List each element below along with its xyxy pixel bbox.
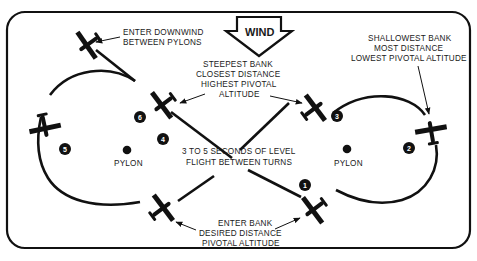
svg-text:3 TO 5 SECONDS OF LEVEL: 3 TO 5 SECONDS OF LEVEL — [182, 147, 296, 156]
svg-text:ENTER BANK: ENTER BANK — [218, 219, 273, 228]
pylon-left-label: PYLON — [114, 159, 143, 168]
position-marker-4: 4 — [157, 133, 169, 145]
svg-text:ENTER DOWNWIND: ENTER DOWNWIND — [123, 28, 204, 37]
position-marker-5: 5 — [59, 143, 71, 155]
svg-text:MOST DISTANCE: MOST DISTANCE — [374, 44, 444, 53]
position-marker-1: 1 — [299, 179, 311, 191]
svg-text:PIVOTAL ALTITUDE: PIVOTAL ALTITUDE — [202, 239, 280, 248]
svg-text:CLOSEST DISTANCE: CLOSEST DISTANCE — [196, 70, 281, 79]
airplane-icon-3 — [293, 90, 331, 130]
pylon-left-marker — [123, 146, 132, 155]
diagonal-path-b — [240, 103, 289, 150]
airplane-icon-left-bottom — [141, 190, 179, 230]
svg-text:5: 5 — [63, 146, 67, 153]
diagonal-path-b2 — [178, 176, 214, 201]
airplane-icon-2 — [414, 118, 450, 147]
position-marker-6: 6 — [134, 111, 146, 123]
pylon-right-marker — [343, 145, 352, 154]
svg-text:3: 3 — [335, 113, 339, 120]
svg-text:ALTITUDE: ALTITUDE — [219, 90, 260, 99]
svg-text:HIGHEST PIVOTAL: HIGHEST PIVOTAL — [201, 80, 277, 89]
svg-text:STEEPEST BANK: STEEPEST BANK — [203, 60, 273, 69]
diagonal-path-a2 — [248, 170, 301, 197]
wind-label: WIND — [245, 26, 274, 38]
airplane-icon-1 — [296, 188, 334, 228]
eights-on-pylons-diagram: WIND PYLON PYLON 1 2 3 4 5 6 ENTER DOWNW… — [0, 0, 477, 261]
airplane-icon-5 — [26, 110, 62, 140]
svg-text:1: 1 — [303, 182, 307, 189]
annotation-level-flight: 3 TO 5 SECONDS OF LEVEL FLIGHT BETWEEN T… — [182, 147, 296, 167]
airplane-icon-entry — [70, 23, 108, 63]
svg-text:DESIRED DISTANCE: DESIRED DISTANCE — [199, 229, 282, 238]
pylon-right-label: PYLON — [334, 159, 363, 168]
svg-text:LOWEST PIVOTAL ALTITUDE: LOWEST PIVOTAL ALTITUDE — [351, 54, 467, 63]
svg-text:6: 6 — [138, 114, 142, 121]
position-marker-3: 3 — [331, 110, 343, 122]
annotation-enter-downwind: ENTER DOWNWIND BETWEEN PYLONS — [96, 28, 204, 47]
svg-text:BETWEEN PYLONS: BETWEEN PYLONS — [123, 38, 202, 47]
svg-text:4: 4 — [161, 136, 165, 143]
left-loop-path — [38, 71, 140, 205]
position-marker-2: 2 — [403, 142, 415, 154]
svg-text:SHALLOWEST BANK: SHALLOWEST BANK — [368, 34, 452, 43]
svg-text:FLIGHT BETWEEN TURNS: FLIGHT BETWEEN TURNS — [186, 158, 292, 167]
svg-text:2: 2 — [407, 145, 411, 152]
annotation-enter-bank: ENTER BANK DESIRED DISTANCE PIVOTAL ALTI… — [176, 218, 300, 248]
annotation-steepest-bank: STEEPEST BANK CLOSEST DISTANCE HIGHEST P… — [180, 60, 302, 103]
diagonal-entry-path — [96, 50, 135, 81]
